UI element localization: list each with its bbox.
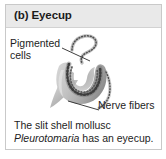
caption-line-2-rest: has an eyecup. — [79, 132, 153, 144]
label-nerve-fibers: Nerve fibers — [98, 100, 155, 112]
panel-header: (b) Eyecup — [6, 5, 161, 28]
label-pigmented-cells: Pigmented cells — [10, 38, 60, 61]
label-pigmented-cells-line1: Pigmented — [10, 37, 60, 49]
panel-caption: The slit shell mollusc Pleurotomaria has… — [14, 119, 160, 145]
caption-line-2: Pleurotomaria has an eyecup. — [14, 132, 160, 145]
page-title: (b) Eyecup — [14, 9, 72, 21]
pigment-trail-upper — [72, 36, 96, 63]
caption-genus-name: Pleurotomaria — [14, 132, 79, 144]
figure-panel-eyecup: (b) Eyecup — [5, 4, 162, 150]
caption-line-1: The slit shell mollusc — [14, 119, 160, 132]
illustration-area: Pigmented cells Nerve fibers — [6, 28, 161, 117]
label-pigmented-cells-line2: cells — [10, 49, 31, 61]
